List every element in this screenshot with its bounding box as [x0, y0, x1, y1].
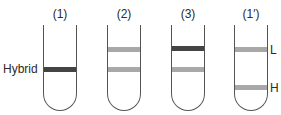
tube-3-middle-band — [172, 67, 204, 72]
tube-3-label: (3) — [168, 7, 208, 21]
tube-1-prime-label: (1′) — [231, 7, 271, 21]
tube-1-prime-heavy-band — [235, 85, 267, 90]
tube-1 — [43, 25, 77, 111]
tube-1-hybrid-band — [44, 67, 76, 72]
light-band-label: L — [270, 43, 277, 57]
tube-3-upper-band — [172, 46, 204, 51]
tube-2-label: (2) — [104, 7, 144, 21]
tube-3 — [171, 25, 205, 111]
tube-2-middle-band — [108, 67, 140, 72]
tube-1-prime-light-band — [235, 47, 267, 52]
tube-2-upper-band — [108, 47, 140, 52]
hybrid-label: Hybrid — [3, 62, 38, 76]
tube-2 — [107, 25, 141, 111]
tube-1-label: (1) — [40, 7, 80, 21]
heavy-band-label: H — [270, 81, 279, 95]
tube-1-prime — [234, 25, 268, 111]
